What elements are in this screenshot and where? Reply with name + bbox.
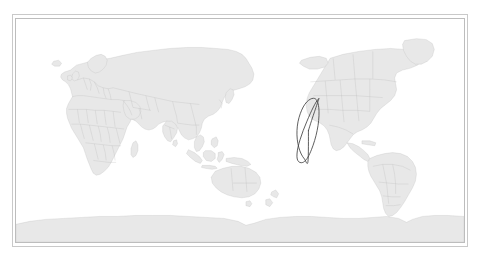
landmass-africa: [67, 96, 133, 176]
world-map-svg: [16, 19, 464, 242]
landmass-philippines: [211, 137, 218, 148]
landmass-australia: [211, 166, 261, 197]
landmass-antarctica: [16, 215, 464, 242]
landmass-new-guinea: [226, 158, 251, 167]
landmass-java: [201, 165, 217, 169]
landmass-new-zealand-south: [266, 199, 273, 207]
land-layer: [16, 39, 464, 242]
map-outer-frame: [12, 14, 468, 247]
landmass-new-zealand: [271, 190, 279, 198]
landmass-iceland: [52, 60, 62, 66]
landmass-alaska: [299, 56, 328, 69]
landmass-sulawesi: [217, 152, 224, 163]
landmass-central-america: [347, 143, 370, 162]
landmass-borneo: [203, 151, 215, 162]
landmass-madagascar: [131, 141, 138, 158]
landmass-cuba: [362, 141, 376, 146]
screenshot-root: [0, 0, 481, 265]
landmass-indochina: [194, 135, 204, 152]
landmass-sri-lanka: [173, 140, 178, 147]
landmass-south-america: [368, 153, 417, 217]
landmass-india: [163, 121, 178, 142]
map-panel: [15, 18, 465, 243]
landmass-sumatra: [186, 150, 202, 164]
landmass-tasmania: [246, 201, 252, 207]
